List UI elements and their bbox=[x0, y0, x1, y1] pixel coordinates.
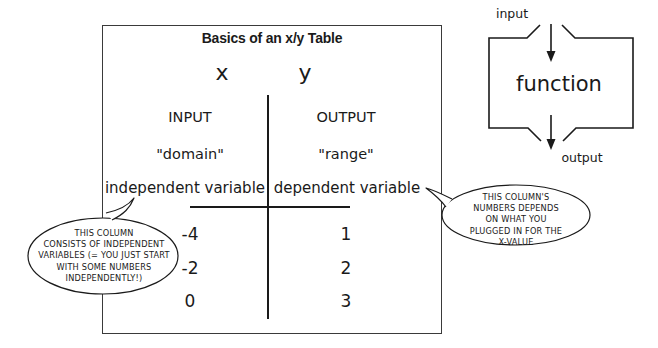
cell-y-value: 2 bbox=[268, 255, 424, 281]
function-body-label: function bbox=[484, 72, 634, 96]
cell-range-label: "range" bbox=[268, 143, 424, 165]
cell-y-value: 1 bbox=[268, 221, 424, 247]
input-arrow-head bbox=[547, 51, 556, 62]
callout-text-right: THIS COLUMN'S NUMBERS DEPENDS ON WHAT YO… bbox=[446, 192, 586, 248]
column-header-y: y bbox=[275, 60, 335, 85]
cell-input-label: INPUT bbox=[112, 106, 268, 128]
cell-domain-label: "domain" bbox=[112, 143, 268, 165]
cell-x-value: 0 bbox=[112, 288, 268, 314]
function-input-label: input bbox=[470, 6, 554, 21]
cell-y-value: 3 bbox=[268, 288, 424, 314]
diagram-canvas: Basics of an x/y Table x y INPUTOUTPUT "… bbox=[0, 0, 658, 348]
output-arrow-head bbox=[547, 139, 556, 150]
cell-output-label: OUTPUT bbox=[268, 106, 424, 128]
table-row: 03 bbox=[112, 288, 424, 314]
page-title: Basics of an x/y Table bbox=[114, 29, 430, 46]
callout-text-left: THIS COLUMN CONSISTS OF INDEPENDENT VARI… bbox=[34, 228, 174, 284]
table-row: independent variabledependent variable bbox=[104, 177, 428, 199]
cell-independent-variable-label: independent variable bbox=[104, 177, 266, 199]
table-horizontal-divider bbox=[190, 206, 350, 208]
function-output-label: output bbox=[540, 150, 624, 165]
column-header-x: x bbox=[192, 60, 252, 85]
cell-dependent-variable-label: dependent variable bbox=[266, 177, 428, 199]
